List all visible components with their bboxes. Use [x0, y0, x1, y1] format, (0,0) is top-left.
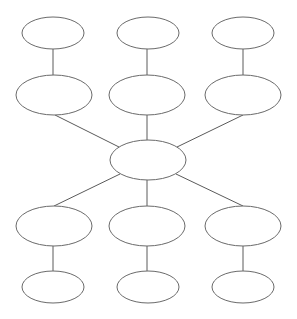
- edge-center-upper-right: [177, 115, 243, 147]
- node-upper-left-outer[interactable]: [22, 17, 84, 49]
- node-lower-middle-outer[interactable]: [117, 271, 179, 303]
- node-center[interactable]: [110, 140, 186, 180]
- node-lower-right-inner[interactable]: [205, 206, 281, 246]
- node-lower-right-outer[interactable]: [212, 271, 274, 303]
- diagram-canvas: [0, 0, 297, 319]
- node-upper-middle-outer[interactable]: [117, 17, 179, 49]
- node-upper-right-inner[interactable]: [205, 75, 281, 115]
- node-lower-left-outer[interactable]: [22, 271, 84, 303]
- edge-center-upper-left: [55, 115, 119, 147]
- edge-center-lower-left: [54, 174, 120, 206]
- node-upper-right-outer[interactable]: [212, 17, 274, 49]
- node-lower-left-inner[interactable]: [16, 206, 92, 246]
- nodes: [16, 17, 281, 303]
- edge-center-lower-right: [176, 174, 243, 206]
- node-upper-middle-inner[interactable]: [109, 75, 185, 115]
- node-upper-left-inner[interactable]: [16, 75, 92, 115]
- node-lower-middle-inner[interactable]: [109, 206, 185, 246]
